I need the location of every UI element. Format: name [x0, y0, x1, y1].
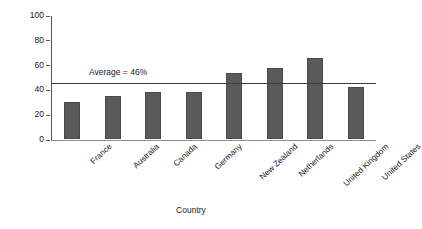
y-tick-label: 60 — [35, 60, 44, 71]
y-tick-label: 0 — [39, 134, 44, 145]
x-tick-label-united-kingdom: United Kingdom — [342, 142, 391, 188]
y-tick-mark — [46, 140, 50, 141]
x-axis-tick-labels: FranceAustraliaCanadaGermanyNew ZealandN… — [52, 142, 377, 194]
x-tick-label-netherlands: Netherlands — [297, 142, 335, 179]
y-tick-mark — [46, 16, 50, 17]
y-tick-label: 40 — [35, 84, 44, 95]
bar-canada — [145, 92, 161, 139]
bar-slot — [336, 16, 377, 139]
bar-slot — [174, 16, 215, 139]
y-tick-mark — [46, 40, 50, 41]
x-axis-line — [51, 140, 376, 141]
bar-united-kingdom — [307, 58, 323, 139]
bar-slot — [52, 16, 93, 139]
average-reference-line — [51, 83, 376, 84]
x-tick-label-canada: Canada — [171, 142, 198, 168]
bar-slot — [295, 16, 336, 139]
bar-france — [64, 102, 80, 139]
bar-slot — [214, 16, 255, 139]
x-tick-label-germany: Germany — [213, 142, 244, 172]
bar-australia — [105, 96, 121, 139]
bar-slot — [93, 16, 134, 139]
y-tick-label: 20 — [35, 109, 44, 120]
y-tick-mark — [46, 90, 50, 91]
x-tick-label-australia: Australia — [131, 142, 160, 170]
x-tick-label-france: France — [89, 142, 114, 166]
bar-united-states — [348, 87, 364, 139]
y-tick-label: 80 — [35, 35, 44, 46]
x-axis-title: Country — [0, 205, 382, 215]
bar-germany — [186, 92, 202, 139]
bar-netherlands — [267, 68, 283, 139]
plot-area: 020406080100 Average = 46% — [51, 16, 376, 140]
bar-slot — [133, 16, 174, 139]
y-tick-label: 100 — [30, 10, 44, 21]
bar-slot — [255, 16, 296, 139]
y-tick-mark — [46, 115, 50, 116]
average-reference-label: Average = 46% — [89, 67, 147, 77]
bar-series — [52, 16, 376, 139]
y-tick-mark — [46, 65, 50, 66]
x-tick-label-new-zealand: New Zealand — [258, 142, 299, 181]
